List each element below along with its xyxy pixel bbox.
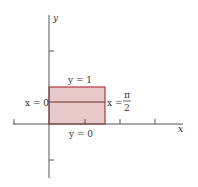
y-axis-label: y [52,13,59,23]
label-top: y = 1 [67,75,92,85]
x-axis-label: x [178,124,183,134]
label-left: x = 0 [25,98,49,108]
shaded-region [49,87,105,124]
diagram-canvas: y x y = 1 y = 0 x = 0 x = π 2 [0,0,198,187]
label-right-denominator: 2 [124,103,130,113]
label-right: x = [107,98,122,108]
label-right-numerator: π [124,90,130,100]
label-bottom: y = 0 [68,129,93,139]
